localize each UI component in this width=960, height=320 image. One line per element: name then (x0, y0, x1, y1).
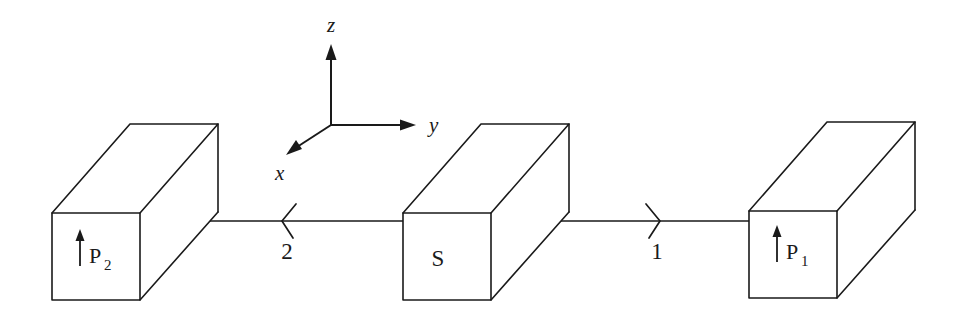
analyzer-p2-box[interactable] (52, 124, 218, 300)
z-axis-label: z (326, 13, 335, 37)
analyzer-p1-label: P (786, 239, 798, 264)
y-axis-label: y (427, 113, 439, 137)
beam-2-label: 2 (281, 239, 293, 264)
analyzer-p2-label-subscript: 2 (104, 257, 112, 273)
schematic-canvas: P 2 S P 1 (0, 0, 960, 320)
analyzer-p1-box[interactable] (749, 122, 915, 298)
x-axis-arrowhead-icon (286, 140, 302, 155)
z-axis-arrowhead-icon (326, 44, 337, 60)
source-box[interactable] (403, 124, 569, 300)
figure-root: P 2 S P 1 (0, 0, 960, 320)
source-label: S (432, 246, 445, 271)
source-front-face (403, 213, 491, 300)
beam-1-label: 1 (651, 239, 663, 264)
analyzer-p1-label-subscript: 1 (801, 253, 809, 269)
x-axis-label: x (274, 161, 285, 185)
analyzer-p2-label: P (89, 243, 101, 268)
x-axis-line (297, 125, 331, 147)
coordinate-axes (286, 44, 416, 155)
y-axis-arrowhead-icon (400, 120, 416, 131)
